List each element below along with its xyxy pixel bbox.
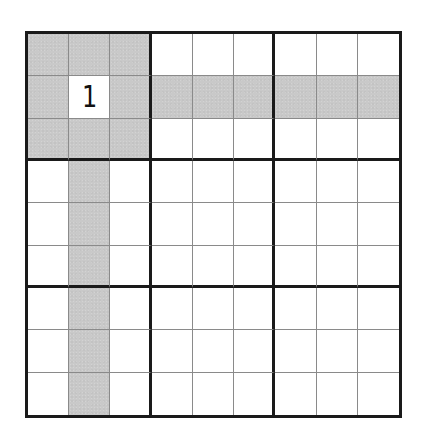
grid-cell[interactable]: [110, 76, 151, 118]
grid-cell[interactable]: [193, 203, 234, 245]
grid-cell[interactable]: [358, 288, 399, 330]
grid-cell[interactable]: [110, 203, 151, 245]
grid-cell[interactable]: [193, 34, 234, 76]
grid-cell[interactable]: [317, 288, 358, 330]
grid-cell[interactable]: [317, 373, 358, 415]
grid-cell[interactable]: [317, 161, 358, 203]
grid-cell[interactable]: [358, 373, 399, 415]
grid-cell[interactable]: [152, 34, 193, 76]
grid-cell[interactable]: [317, 76, 358, 118]
grid-cell[interactable]: [234, 330, 275, 372]
grid-cell[interactable]: [152, 373, 193, 415]
grid-cell[interactable]: [275, 34, 316, 76]
grid-cell[interactable]: [275, 119, 316, 161]
grid-cell[interactable]: [234, 373, 275, 415]
grid-cell[interactable]: [193, 288, 234, 330]
grid-cell[interactable]: [28, 34, 69, 76]
grid-cell[interactable]: [152, 161, 193, 203]
grid-cell[interactable]: [69, 34, 110, 76]
grid-cell[interactable]: [69, 246, 110, 288]
grid-cell[interactable]: [234, 34, 275, 76]
grid-cell[interactable]: [28, 119, 69, 161]
grid-cell[interactable]: [152, 203, 193, 245]
grid-cell[interactable]: [28, 373, 69, 415]
grid-cell[interactable]: [152, 76, 193, 118]
grid-cell[interactable]: [69, 330, 110, 372]
grid-cell[interactable]: [275, 246, 316, 288]
grid-cell[interactable]: [234, 76, 275, 118]
grid-cell[interactable]: [69, 203, 110, 245]
grid-cell[interactable]: [110, 373, 151, 415]
grid-cell[interactable]: [234, 203, 275, 245]
grid-cell[interactable]: [317, 246, 358, 288]
grid-cell[interactable]: [110, 119, 151, 161]
grid-cell[interactable]: [358, 203, 399, 245]
grid-cell[interactable]: [152, 119, 193, 161]
grid-cell[interactable]: [28, 246, 69, 288]
grid-cell[interactable]: [28, 288, 69, 330]
grid-cell[interactable]: [275, 330, 316, 372]
grid-cell[interactable]: [152, 246, 193, 288]
grid-cell[interactable]: [317, 34, 358, 76]
grid-cell[interactable]: [69, 119, 110, 161]
grid-cell[interactable]: 1: [69, 76, 110, 118]
grid-cell[interactable]: [358, 246, 399, 288]
cell-digit: 1: [82, 82, 97, 112]
grid-cell[interactable]: [152, 288, 193, 330]
grid-cell[interactable]: [358, 34, 399, 76]
grid-cell[interactable]: [234, 288, 275, 330]
grid-cell[interactable]: [152, 330, 193, 372]
grid-cell[interactable]: [193, 119, 234, 161]
grid-cell[interactable]: [234, 161, 275, 203]
grid-cell[interactable]: [193, 161, 234, 203]
grid-cell[interactable]: [110, 288, 151, 330]
grid-cell[interactable]: [69, 161, 110, 203]
grid-cell[interactable]: [28, 76, 69, 118]
grid-cell[interactable]: [275, 161, 316, 203]
grid-cell[interactable]: [275, 203, 316, 245]
grid-cell[interactable]: [28, 203, 69, 245]
grid-cell[interactable]: [317, 119, 358, 161]
grid-cell[interactable]: [110, 34, 151, 76]
grid-cell[interactable]: [275, 76, 316, 118]
grid-cell[interactable]: [110, 330, 151, 372]
grid-cell[interactable]: [358, 76, 399, 118]
grid-cell[interactable]: [110, 246, 151, 288]
grid-cell[interactable]: [275, 288, 316, 330]
sudoku-board: 1: [25, 31, 402, 418]
grid-cell[interactable]: [193, 330, 234, 372]
grid-cell[interactable]: [275, 373, 316, 415]
grid-cell[interactable]: [358, 330, 399, 372]
grid-cell[interactable]: [69, 288, 110, 330]
grid-cell[interactable]: [234, 119, 275, 161]
grid-cell[interactable]: [28, 330, 69, 372]
grid-cell[interactable]: [317, 203, 358, 245]
grid-cell[interactable]: [358, 119, 399, 161]
grid-cell[interactable]: [28, 161, 69, 203]
grid-cell[interactable]: [193, 246, 234, 288]
grid-cell[interactable]: [193, 373, 234, 415]
grid-cell[interactable]: [358, 161, 399, 203]
grid-cell[interactable]: [69, 373, 110, 415]
grid-cell[interactable]: [110, 161, 151, 203]
grid-cell[interactable]: [193, 76, 234, 118]
grid-cell[interactable]: [317, 330, 358, 372]
grid-cell[interactable]: [234, 246, 275, 288]
